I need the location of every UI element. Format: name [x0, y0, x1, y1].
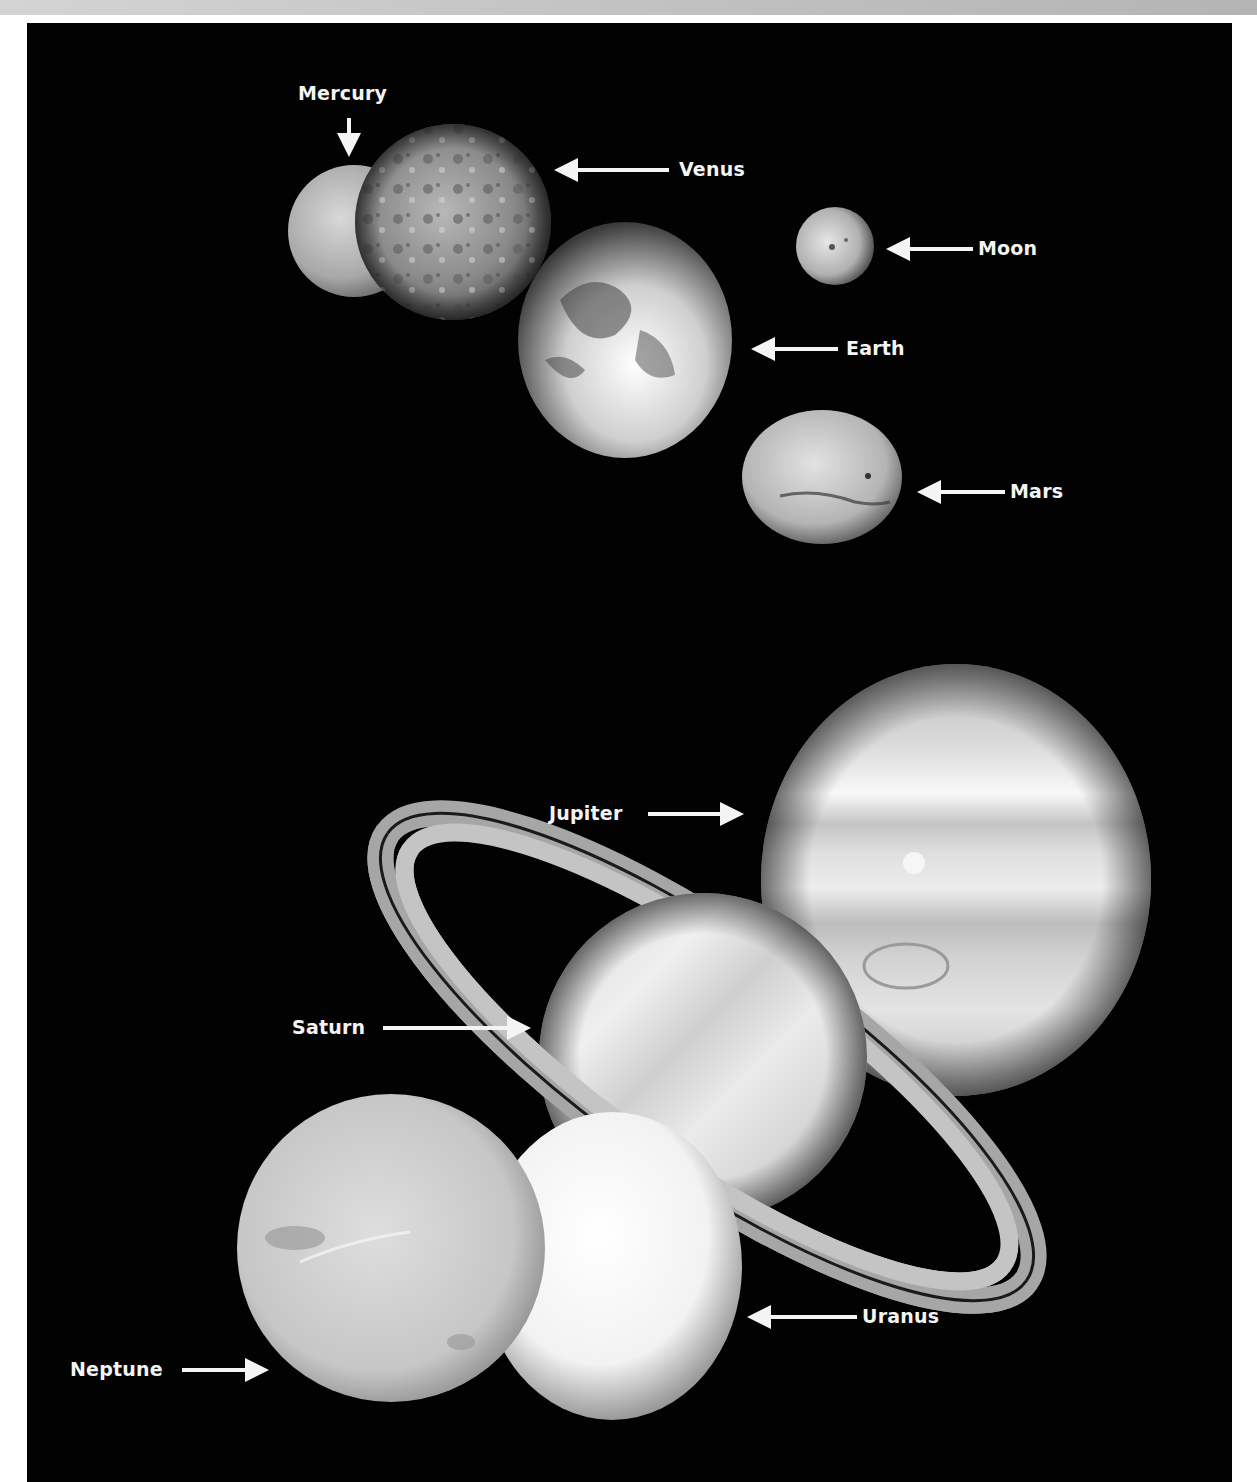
label-neptune: Neptune [70, 1360, 163, 1379]
label-saturn: Saturn [292, 1018, 365, 1037]
planet-neptune [237, 1094, 545, 1402]
label-moon: Moon [978, 239, 1037, 258]
label-earth: Earth [846, 339, 905, 358]
planet-mars [742, 410, 902, 544]
label-uranus: Uranus [862, 1307, 939, 1326]
solar-system-figure [27, 23, 1232, 1482]
label-mars: Mars [1010, 482, 1063, 501]
page-top-band [0, 0, 1257, 15]
planet-moon [796, 207, 874, 285]
planet-earth [518, 222, 732, 458]
label-mercury: Mercury [298, 84, 387, 103]
planet-venus [355, 124, 551, 320]
label-jupiter: Jupiter [549, 804, 622, 823]
label-venus: Venus [679, 160, 745, 179]
planets-illustration [27, 23, 1232, 1482]
